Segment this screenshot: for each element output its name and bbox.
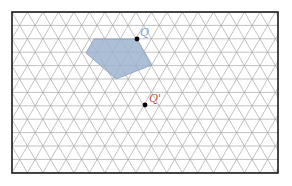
point-Q-prime-dot bbox=[143, 103, 148, 108]
point-Q-label: Q bbox=[140, 26, 149, 39]
grid-line bbox=[291, 12, 292, 173]
grid-line bbox=[0, 12, 12, 173]
grid-line bbox=[0, 12, 12, 173]
grid-line bbox=[291, 12, 292, 173]
isometric-grid-diagram: QQ' bbox=[0, 0, 292, 186]
point-Q-dot bbox=[135, 37, 140, 42]
shaded-pentagon bbox=[86, 39, 152, 79]
point-Q-prime-label: Q' bbox=[149, 92, 161, 105]
